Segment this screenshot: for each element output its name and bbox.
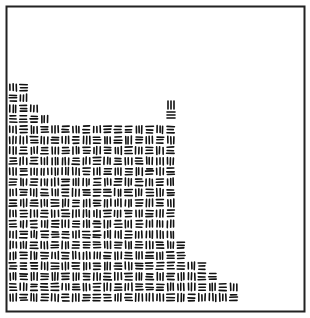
texture-strokes [9, 84, 237, 302]
texture-canvas [0, 0, 310, 318]
